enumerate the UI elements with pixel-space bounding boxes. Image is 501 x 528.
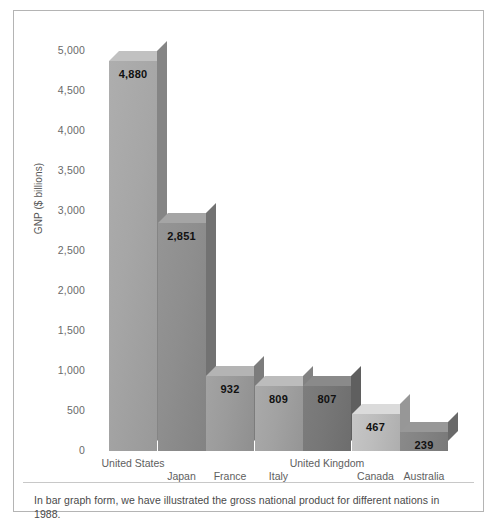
y-tick-label: 0 [41,444,85,456]
bar: 809 [255,386,303,451]
bar-front-face [158,223,206,451]
bar-value-label: 467 [352,421,400,433]
y-tick-label: 5,000 [41,44,85,56]
y-tick-label: 1,500 [41,324,85,336]
figure-frame: GNP ($ billions) 05001,0001,5002,0002,50… [13,10,484,512]
y-tick-label: 4,000 [41,124,85,136]
y-axis-title: GNP ($ billions) [33,144,44,254]
y-tick-label: 2,000 [41,284,85,296]
bar-value-label: 2,851 [158,230,206,242]
bar-front-face [109,61,157,451]
y-tick-label: 1,000 [41,364,85,376]
bar-chart: GNP ($ billions) 05001,0001,5002,0002,50… [14,11,483,481]
caption-divider [23,482,474,483]
y-tick-label: 3,500 [41,164,85,176]
bar: 4,880 [109,61,157,451]
bar-value-label: 4,880 [109,68,157,80]
y-tick-label: 500 [41,404,85,416]
bar-value-label: 932 [206,383,254,395]
bar-value-label: 809 [255,393,303,405]
bar: 239 [400,432,448,451]
x-category-label: United States [90,457,176,470]
bar-side-face [448,412,458,441]
bar-value-label: 239 [400,439,448,451]
y-tick-label: 4,500 [41,84,85,96]
bar: 932 [206,376,254,451]
figure-caption: In bar graph form, we have illustrated t… [34,493,466,521]
y-tick-label: 3,000 [41,204,85,216]
bar: 467 [352,414,400,451]
bar: 2,851 [158,223,206,451]
bar: 807 [303,386,351,451]
x-category-label: United Kingdom [284,457,370,470]
bar-value-label: 807 [303,393,351,405]
y-tick-label: 2,500 [41,244,85,256]
